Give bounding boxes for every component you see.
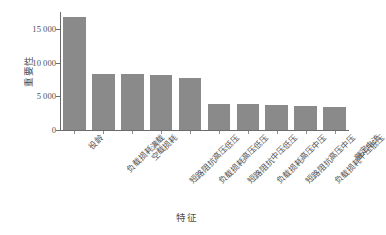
bar xyxy=(208,104,231,130)
x-tick-label: 役龄 xyxy=(85,131,105,151)
bar xyxy=(237,104,260,130)
y-axis-tick-labels: 05 00010 00015 000 xyxy=(6,0,56,235)
y-tick-label: 15 000 xyxy=(8,25,56,34)
plot-area xyxy=(60,12,352,130)
y-tick-label: 0 xyxy=(8,126,56,135)
bar xyxy=(294,106,317,130)
bar xyxy=(323,107,346,130)
y-tick-label: 5 000 xyxy=(8,92,56,101)
bar-series xyxy=(60,12,352,130)
bar xyxy=(265,105,288,130)
bar xyxy=(92,74,115,130)
bar xyxy=(179,78,202,130)
y-tick-label: 10 000 xyxy=(8,59,56,68)
x-axis-title: 特征 xyxy=(0,210,373,224)
x-axis-tick-labels: 役龄负载损耗满载空载损耗短路阻抗高压低压负载损耗高压低压短路阻抗中压低压负载损耗… xyxy=(60,131,373,209)
bar xyxy=(121,74,144,130)
bar xyxy=(150,75,173,130)
bar xyxy=(63,17,86,130)
